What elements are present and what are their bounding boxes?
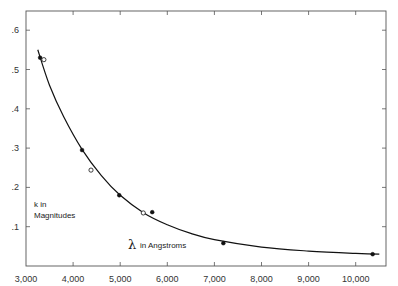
filled-data-point <box>221 241 225 245</box>
x-axis-label-text: in Angstroms <box>140 241 186 250</box>
y-tick-label: .1 <box>11 222 19 232</box>
x-tick-label: 7,000 <box>203 274 226 284</box>
x-tick-label: 9,000 <box>297 274 320 284</box>
y-tick-label: .2 <box>11 182 19 192</box>
y-tick-label: .3 <box>11 143 19 153</box>
x-tick-label: 5,000 <box>109 274 132 284</box>
filled-data-point <box>117 193 121 197</box>
data-points <box>38 56 374 256</box>
x-tick-label: 3,000 <box>15 274 38 284</box>
x-tick-label: 8,000 <box>250 274 273 284</box>
y-tick-label: .5 <box>11 65 19 75</box>
x-axis-label-symbol: λ <box>128 237 136 252</box>
filled-data-point <box>371 252 375 256</box>
open-data-point <box>141 211 145 215</box>
y-axis-ticks: .1.2.3.4.5.6 <box>11 25 386 232</box>
open-data-point <box>42 58 46 62</box>
y-axis-label-line1: k in <box>34 200 46 209</box>
y-tick-label: .6 <box>11 25 19 35</box>
filled-data-point <box>150 210 154 214</box>
x-tick-label: 10,000 <box>342 274 370 284</box>
open-data-point <box>89 168 93 172</box>
x-tick-label: 6,000 <box>156 274 179 284</box>
y-axis-label-line2: Magnitudes <box>34 211 75 220</box>
extinction-chart: 3,0004,0005,0006,0007,0008,0009,00010,00… <box>0 0 398 286</box>
filled-data-point <box>80 148 84 152</box>
y-tick-label: .4 <box>11 104 19 114</box>
x-tick-label: 4,000 <box>62 274 85 284</box>
fitted-curve <box>38 50 380 254</box>
filled-data-point <box>38 56 42 60</box>
x-axis-ticks: 3,0004,0005,0006,0007,0008,0009,00010,00… <box>15 11 370 284</box>
plot-frame <box>26 11 386 266</box>
